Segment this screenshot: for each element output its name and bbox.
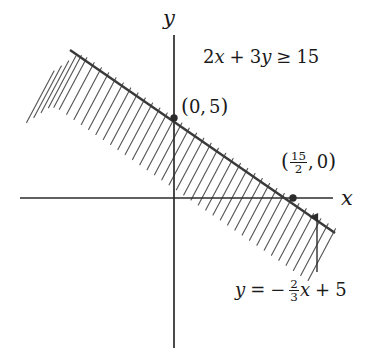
- equation-slope-denominator: 3: [289, 291, 299, 303]
- xint-open-paren: (: [281, 149, 289, 173]
- inequality-graph-figure: y x 2x+3y≥15 (0,5) (152,0) y=−23x+5: [0, 0, 369, 359]
- line-equation-label: y=−23x+5: [235, 278, 347, 304]
- inequality-rhs: 15: [296, 46, 319, 67]
- xint-fraction: 152: [290, 150, 307, 176]
- equation-slope-numerator: 2: [289, 278, 299, 291]
- inequality-var-y: y: [261, 46, 271, 67]
- equation-var-y: y: [235, 279, 245, 300]
- xint-close-paren: ): [328, 149, 336, 173]
- x-axis-label: x: [341, 188, 353, 209]
- equation-var-x: x: [300, 279, 310, 300]
- y-axis-label: y: [163, 8, 175, 29]
- point-label-y-intercept: (0,5): [181, 96, 228, 116]
- yint-close-paren: ): [221, 94, 229, 118]
- inequality-coef-x: 2: [203, 46, 214, 67]
- inequality-plus: +: [230, 46, 245, 67]
- yint-y-value: 5: [209, 96, 220, 117]
- xint-comma: ,: [308, 151, 314, 172]
- point-x-intercept: [289, 194, 296, 201]
- equation-minus: −: [270, 279, 285, 300]
- xint-fraction-denominator: 2: [290, 163, 307, 175]
- inequality-var-x: x: [214, 46, 224, 67]
- xint-fraction-numerator: 15: [290, 150, 307, 163]
- equation-slope-fraction: 23: [289, 278, 299, 304]
- equation-plus: +: [315, 279, 330, 300]
- inequality-label: 2x+3y≥15: [203, 48, 319, 66]
- yint-x-value: 0: [189, 96, 200, 117]
- inequality-relation: ≥: [276, 46, 291, 67]
- equation-equals: =: [250, 279, 265, 300]
- point-y-intercept: [170, 114, 177, 121]
- yint-open-paren: (: [181, 94, 189, 118]
- yint-comma: ,: [200, 96, 206, 117]
- xint-y-value: 0: [317, 151, 328, 172]
- equation-intercept: 5: [335, 279, 346, 300]
- point-label-x-intercept: (152,0): [281, 150, 336, 176]
- boundary-line: [70, 50, 335, 233]
- inequality-coef-y: 3: [250, 46, 261, 67]
